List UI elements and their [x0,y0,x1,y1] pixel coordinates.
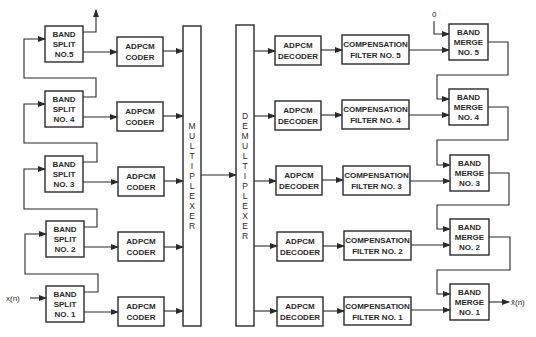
input-signal-label: x(n) [6,294,20,303]
svg-text:NO.5: NO.5 [55,50,74,59]
svg-text:FILTER NO. 2: FILTER NO. 2 [352,247,403,256]
svg-text:DECODER: DECODER [280,248,320,257]
svg-text:FILTER NO. 1: FILTER NO. 1 [352,313,403,322]
compensation-filter-4: COMPENSATION FILTER NO. 4 [342,100,409,129]
svg-text:MERGE: MERGE [454,38,484,47]
svg-text:CODER: CODER [126,53,155,62]
svg-text:ADPCM: ADPCM [125,107,155,116]
multiplexer-label: MULTIPLEXER [188,121,195,231]
svg-text:BAND: BAND [458,159,481,168]
svg-text:ADPCM: ADPCM [285,237,315,246]
svg-text:CODER: CODER [127,248,156,257]
svg-text:BAND: BAND [52,95,75,104]
svg-text:FILTER NO. 5: FILTER NO. 5 [350,51,401,60]
svg-text:FILTER NO. 4: FILTER NO. 4 [350,116,401,125]
subband-codec-diagram: BAND SPLIT NO.5 BAND SPLIT NO. 4 BAND SP… [0,0,536,337]
svg-text:MERGE: MERGE [455,298,485,307]
svg-text:NO. 3: NO. 3 [54,180,75,189]
multiplexer: MULTIPLEXER [183,26,201,326]
svg-text:ADPCM: ADPCM [283,41,313,50]
svg-text:ADPCM: ADPCM [126,172,156,181]
band-merge-5: BAND MERGE NO. 5 [449,24,488,60]
adpcm-coder-3: ADPCM CODER [118,167,164,196]
adpcm-decoder-3: ADPCM DECODER [276,166,322,195]
band-merge-1: BAND MERGE NO. 1 [450,284,489,320]
svg-text:COMPENSATION: COMPENSATION [345,236,410,245]
svg-text:NO. 4: NO. 4 [458,113,479,122]
svg-text:BAND: BAND [52,160,75,169]
svg-text:NO. 5: NO. 5 [458,48,479,57]
svg-text:FILTER NO. 3: FILTER NO. 3 [351,182,402,191]
svg-text:COMPENSATION: COMPENSATION [345,302,410,311]
adpcm-decoder-2: ADPCM DECODER [277,232,323,261]
adpcm-decoder-1: ADPCM DECODER [277,297,323,326]
svg-text:CODER: CODER [127,313,156,322]
adpcm-coder-4: ADPCM CODER [117,102,163,131]
svg-text:ADPCM: ADPCM [283,106,313,115]
connections [24,10,510,312]
svg-text:NO. 2: NO. 2 [55,245,76,254]
svg-text:NO. 4: NO. 4 [54,115,75,124]
compensation-filter-5: COMPENSATION FILTER NO. 5 [342,35,409,64]
svg-text:COMPENSATION: COMPENSATION [343,40,408,49]
demultiplexer: DEMULTIPLEXER [236,25,254,326]
svg-text:ADPCM: ADPCM [126,302,156,311]
adpcm-coder-1: ADPCM CODER [118,297,164,326]
adpcm-decoder-5: ADPCM DECODER [275,36,321,65]
zero-seed-label: 0 [432,10,437,19]
svg-text:DECODER: DECODER [279,182,319,191]
band-split-4: BAND SPLIT NO. 4 [45,91,83,127]
svg-text:MERGE: MERGE [454,103,484,112]
svg-text:MERGE: MERGE [455,169,485,178]
band-merge-4: BAND MERGE NO. 4 [449,89,488,125]
band-merge-2: BAND MERGE NO. 2 [450,219,489,255]
svg-text:CODER: CODER [127,183,156,192]
svg-text:ADPCM: ADPCM [126,237,156,246]
svg-text:ADPCM: ADPCM [284,171,314,180]
svg-text:SPLIT: SPLIT [54,300,77,309]
svg-text:BAND: BAND [458,288,481,297]
svg-text:CODER: CODER [126,118,155,127]
svg-text:COMPENSATION: COMPENSATION [344,171,409,180]
svg-text:NO. 1: NO. 1 [55,310,76,319]
compensation-filter-1: COMPENSATION FILTER NO. 1 [344,297,411,325]
svg-text:SPLIT: SPLIT [54,235,77,244]
svg-text:DECODER: DECODER [278,52,318,61]
compensation-filter-3: COMPENSATION FILTER NO. 3 [343,166,410,195]
svg-text:BAND: BAND [53,225,76,234]
band-merge-3: BAND MERGE NO. 3 [450,155,489,191]
band-split-3: BAND SPLIT NO. 3 [45,156,83,192]
svg-text:DECODER: DECODER [278,117,318,126]
svg-text:MERGE: MERGE [455,233,485,242]
svg-text:NO. 3: NO. 3 [459,179,480,188]
svg-text:BAND: BAND [52,30,75,39]
svg-text:BAND: BAND [457,28,480,37]
adpcm-decoder-4: ADPCM DECODER [275,101,321,130]
svg-text:NO. 2: NO. 2 [459,243,480,252]
band-split-2: BAND SPLIT NO. 2 [46,221,84,257]
svg-text:ADPCM: ADPCM [125,42,155,51]
output-signal-label: x̂(n) [511,298,525,307]
adpcm-coder-2: ADPCM CODER [118,232,164,261]
svg-text:DECODER: DECODER [280,313,320,322]
adpcm-coder-5: ADPCM CODER [117,37,163,66]
compensation-filter-2: COMPENSATION FILTER NO. 2 [344,231,411,260]
svg-text:BAND: BAND [53,290,76,299]
svg-text:BAND: BAND [458,223,481,232]
svg-text:SPLIT: SPLIT [53,40,76,49]
band-split-1: BAND SPLIT NO. 1 [46,286,84,322]
band-split-5: BAND SPLIT NO.5 [45,26,83,62]
svg-text:ADPCM: ADPCM [285,302,315,311]
svg-text:SPLIT: SPLIT [53,105,76,114]
svg-text:NO. 1: NO. 1 [459,308,480,317]
svg-text:COMPENSATION: COMPENSATION [343,105,408,114]
svg-text:SPLIT: SPLIT [53,170,76,179]
svg-text:BAND: BAND [457,93,480,102]
